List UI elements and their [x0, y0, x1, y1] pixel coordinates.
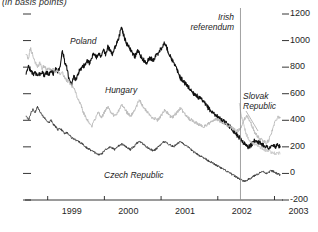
event-label-irish-referendum: Irish referendum [178, 12, 234, 32]
chart-plot-svg [0, 0, 318, 232]
y-tick-label: 800 [290, 61, 305, 71]
y-tick-label: 400 [290, 114, 305, 124]
series-label-hungary: Hungary [105, 85, 137, 95]
x-tick-label: 2000 [108, 206, 148, 216]
irish-label-line1: Irish [178, 12, 234, 22]
y-tick-label: 1000 [290, 35, 310, 45]
chart-container: (in basis points) Poland Hungary Czech R… [0, 0, 318, 232]
y-tick-label: 200 [290, 141, 305, 151]
irish-label-line2: referendum [178, 22, 234, 32]
x-tick-label: 2001 [165, 206, 205, 216]
y-tick-label: -200 [290, 194, 308, 204]
y-tick-label: 1200 [290, 8, 310, 18]
series-line-poland [26, 27, 280, 150]
y-tick-label: 0 [290, 167, 295, 177]
x-tick-label: 2003 [278, 206, 318, 216]
series-label-poland: Poland [70, 36, 96, 46]
x-tick-label: 1999 [52, 206, 92, 216]
slovak-label-line2: Republic [243, 101, 276, 111]
slovak-label-line1: Slovak [243, 91, 276, 101]
series-label-slovak-republic: Slovak Republic [243, 91, 276, 111]
series-line-slovak-republic [239, 104, 280, 155]
y-tick-label: 600 [290, 88, 305, 98]
series-label-czech-republic: Czech Republic [104, 170, 164, 180]
x-tick-label: 2002 [222, 206, 262, 216]
